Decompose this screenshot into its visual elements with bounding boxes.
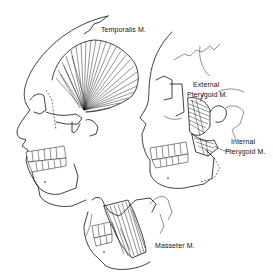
label-internal-pterygoid-line1: Internal [231, 138, 255, 146]
internal-pterygoid-muscle [192, 134, 218, 156]
skull-masseter [84, 197, 172, 270]
label-external-pterygoid-line1: External [193, 81, 219, 89]
temporalis-muscle [52, 40, 138, 112]
label-masseter: Masseter M. [155, 242, 195, 250]
external-pterygoid-muscle [188, 98, 210, 137]
muscles-of-mastication-figure: Temporalis M. External Pterygoid M. Inte… [0, 0, 273, 277]
label-external-pterygoid-line2: Pterygoid M. [187, 91, 228, 99]
label-temporalis: Temporalis M. [101, 26, 146, 34]
skull-temporalis [17, 16, 138, 207]
label-internal-pterygoid-line2: Pterygoid M. [225, 148, 266, 156]
skull-pterygoids [140, 32, 244, 188]
